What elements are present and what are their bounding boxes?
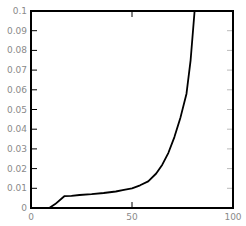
y-tick-label: 0.03 [7,144,27,154]
y-tick-label: 0.01 [7,183,27,193]
y-tick-label: 0 [21,203,27,213]
y-tick-label: 0.1 [13,6,27,16]
y-axis-ticks: 00.010.020.030.040.050.060.070.080.090.1 [7,6,233,213]
x-axis-ticks: 050100 [28,11,242,222]
y-tick-label: 0.08 [7,45,27,55]
x-tick-label: 50 [126,212,138,222]
line-chart: 00.010.020.030.040.050.060.070.080.090.1… [0,0,246,226]
y-tick-label: 0.06 [7,85,27,95]
y-tick-label: 0.09 [7,26,27,36]
x-tick-label: 100 [224,212,241,222]
y-tick-label: 0.05 [7,105,27,115]
data-line [31,11,195,208]
y-tick-label: 0.07 [7,65,27,75]
y-tick-label: 0.04 [7,124,27,134]
x-tick-label: 0 [28,212,34,222]
y-tick-label: 0.02 [7,164,27,174]
plot-frame [31,11,233,208]
